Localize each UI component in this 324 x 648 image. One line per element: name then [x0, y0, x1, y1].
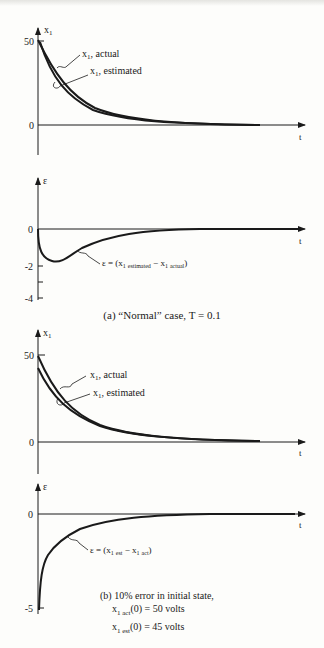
y-axis-label: x1 [44, 24, 53, 37]
tick-label-m4: -4 [25, 293, 33, 304]
label-estimated: x1, estimated [90, 65, 142, 78]
curve-error [38, 229, 300, 262]
panel-a-x1-plot: x1 50 0 t x1, actual x1, estimated [24, 24, 305, 155]
curve-estimated [40, 42, 260, 125]
tick-label-m5: -5 [25, 603, 33, 614]
caption-a: (a) “Normal” case, T = 0.1 [0, 309, 324, 321]
tick-label-0: 0 [29, 120, 34, 131]
label-error-equation: ε = (x1est − x1act) [90, 545, 152, 556]
label-actual: x1, actual [82, 48, 120, 61]
caption-b-line1: (b) 10% error in initial state, [100, 589, 214, 602]
tick-label-m2: -2 [25, 261, 33, 272]
leader-actual [60, 376, 86, 389]
y-axis-label: ε [43, 175, 47, 186]
curve-actual [38, 356, 260, 441]
panel-a-error-plot: ε 0 -2 -4 t ε = (x1estimated − x1actual) [25, 175, 305, 304]
label-estimated: x1, estimated [93, 387, 145, 400]
curve-estimated [38, 368, 260, 441]
x-axis-label: t [299, 132, 302, 142]
tick-label-50: 50 [24, 36, 34, 47]
label-error-equation: ε = (x1estimated − x1actual) [102, 258, 187, 269]
x-axis-label: t [299, 520, 302, 530]
tick-label-50: 50 [24, 350, 34, 361]
caption-b: (b) 10% error in initial state, x1 act(0… [100, 589, 214, 638]
x-axis-label: t [299, 448, 302, 458]
tick-label-0: 0 [28, 224, 33, 235]
caption-b-line3: x1 est(0) = 45 volts [100, 620, 214, 638]
tick-label-0: 0 [28, 509, 33, 520]
x-axis-label: t [299, 236, 302, 246]
leader-actual [57, 55, 80, 68]
leader-error [68, 537, 88, 550]
y-axis-label: x1 [43, 327, 52, 340]
figure-canvas: x1 50 0 t x1, actual x1, estimated ε 0 -… [0, 0, 324, 648]
curve-actual [38, 40, 260, 125]
caption-b-line2: x1 act(0) = 50 volts [100, 602, 214, 620]
tick-label-0: 0 [29, 437, 34, 448]
panel-b-x1-plot: x1 50 0 t x1, actual x1, estimated [24, 327, 305, 474]
label-actual: x1, actual [90, 369, 128, 382]
y-axis-label: ε [43, 481, 47, 492]
leader-error [77, 250, 100, 264]
